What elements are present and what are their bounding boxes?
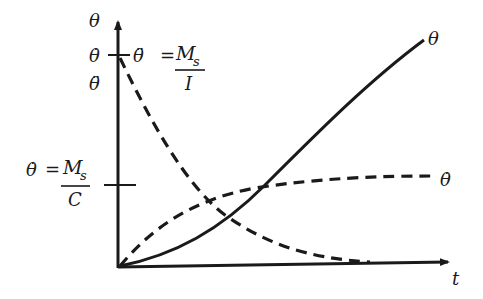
theta-curve-label: θ bbox=[428, 28, 439, 49]
accel-numerator-sub: s bbox=[193, 54, 200, 69]
accel-initial-annotation: θ̈ = M s I bbox=[133, 42, 205, 94]
accel-denominator: I bbox=[184, 73, 193, 94]
response-diagram: θ θ̇ θ̈ θ̈ = M s I θ̇ = M s C θ θ̇ t bbox=[0, 0, 483, 299]
rate-final-annotation: θ̇ = M s C bbox=[26, 156, 90, 210]
rate-numerator-sub: s bbox=[80, 168, 87, 183]
theta-curve bbox=[120, 40, 424, 266]
rate-lhs: θ̇ bbox=[26, 159, 37, 180]
theta-ddot-curve bbox=[120, 58, 370, 262]
y-label-theta: θ bbox=[89, 10, 100, 31]
x-axis bbox=[118, 262, 448, 267]
rate-denominator: C bbox=[68, 189, 82, 210]
rate-equals: = bbox=[45, 159, 60, 180]
theta-dot-curve-label: θ̇ bbox=[440, 169, 451, 190]
y-label-theta-dot: θ̇ bbox=[89, 45, 100, 66]
accel-lhs: θ̈ bbox=[133, 45, 144, 66]
x-label-t: t bbox=[452, 268, 460, 289]
accel-equals: = bbox=[160, 45, 175, 66]
y-label-theta-ddot: θ̈ bbox=[89, 73, 100, 94]
